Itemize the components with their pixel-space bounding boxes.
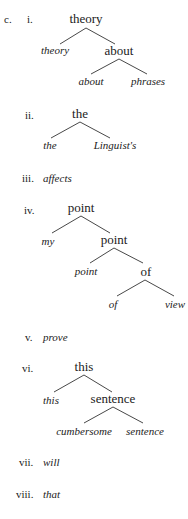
item-numeral: viii. <box>16 489 33 500</box>
item-numeral: i. <box>27 14 33 25</box>
tree-leaf: phrases <box>131 76 165 87</box>
tree-leaf: of <box>109 299 118 310</box>
tree-leaf: the <box>43 140 56 151</box>
tree-node: sentence <box>91 392 136 405</box>
item-numeral: vi. <box>22 363 33 374</box>
example-label: c. <box>4 14 12 25</box>
item-numeral: ii. <box>25 110 34 121</box>
tree-node-root: point <box>68 201 95 214</box>
tree-leaf: view <box>165 299 185 310</box>
item-word: prove <box>43 332 68 343</box>
item-numeral: iv. <box>24 205 35 216</box>
tree-leaf: Linguist's <box>94 140 137 151</box>
tree-node: point <box>101 233 128 246</box>
item-numeral: v. <box>25 332 33 343</box>
tree-node: about <box>105 44 134 57</box>
item-numeral: iii. <box>22 173 34 184</box>
tree-node-root: this <box>75 360 94 373</box>
tree-leaf: cumbersome <box>56 426 112 437</box>
item-word: that <box>43 489 60 500</box>
tree-node-root: theory <box>69 12 102 25</box>
item-word: affects <box>43 173 72 184</box>
tree-leaf: about <box>78 76 103 87</box>
tree-node-root: the <box>72 107 88 120</box>
tree-node: of <box>141 265 152 278</box>
tree-leaf: this <box>43 395 59 406</box>
tree-leaf: point <box>75 266 98 277</box>
item-word: will <box>43 457 60 468</box>
item-numeral: vii. <box>19 457 33 468</box>
tree-leaf: sentence <box>126 426 164 437</box>
tree-leaf: my <box>42 236 55 247</box>
tree-leaf: theory <box>41 45 69 56</box>
